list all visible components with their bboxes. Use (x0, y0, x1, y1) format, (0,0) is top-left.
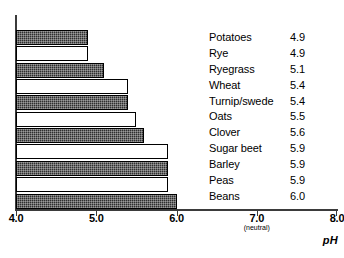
legend-row: Peas5.9 (209, 173, 339, 189)
x-tick-label: 6.0 (169, 212, 184, 224)
legend-ph-value: 5.9 (290, 157, 305, 173)
legend-ph-value: 6.0 (290, 189, 305, 205)
legend-ph-value: 5.9 (290, 141, 305, 157)
legend-ph-value: 5.9 (290, 173, 305, 189)
legend-row: Barley5.9 (209, 157, 339, 173)
x-tick-label: 8.0 (330, 212, 344, 224)
legend-row: Oats5.5 (209, 109, 339, 125)
legend-crop-name: Turnip/swede (209, 94, 273, 110)
bar-peas (16, 177, 168, 192)
legend-crop-name: Oats (209, 109, 232, 125)
bar-beans (16, 194, 177, 209)
legend-row: Beans6.0 (209, 189, 339, 205)
legend-ph-value: 5.6 (290, 125, 305, 141)
legend-row: Ryegrass5.1 (209, 62, 339, 78)
legend-crop-name: Ryegrass (209, 62, 255, 78)
legend-crop-name: Barley (209, 157, 240, 173)
legend-crop-name: Potatoes (209, 30, 252, 46)
x-tick-label: 7.0 (249, 212, 264, 224)
bar-rye (16, 46, 88, 61)
legend-ph-value: 4.9 (290, 30, 305, 46)
bar-turnip-swede (16, 95, 128, 110)
legend-row: Turnip/swede5.4 (209, 94, 339, 110)
legend-row: Rye4.9 (209, 46, 339, 62)
legend-crop-name: Peas (209, 173, 234, 189)
bar-potatoes (16, 30, 88, 45)
x-tick-sublabel: (neutral) (244, 224, 270, 231)
legend-crop-name: Beans (209, 189, 240, 205)
bar-clover (16, 128, 144, 143)
legend-row: Wheat5.4 (209, 78, 339, 94)
bar-barley (16, 161, 168, 176)
legend-row: Potatoes4.9 (209, 30, 339, 46)
legend-ph-value: 4.9 (290, 46, 305, 62)
legend-row: Sugar beet5.9 (209, 141, 339, 157)
x-tick-label: 5.0 (89, 212, 104, 224)
legend-row: Clover5.6 (209, 125, 339, 141)
legend-crop-name: Rye (209, 46, 228, 62)
legend-crop-name: Wheat (209, 78, 240, 94)
legend-crop-name: Sugar beet (209, 141, 262, 157)
bar-sugar-beet (16, 144, 168, 159)
legend-ph-value: 5.1 (290, 62, 305, 78)
bar-ryegrass (16, 63, 104, 78)
legend-ph-value: 5.5 (290, 109, 305, 125)
legend-crop-name: Clover (209, 125, 240, 141)
legend-table: Potatoes4.9Rye4.9Ryegrass5.1Wheat5.4Turn… (209, 30, 339, 205)
legend-ph-value: 5.4 (290, 94, 305, 110)
x-tick-label: 4.0 (9, 212, 24, 224)
bar-oats (16, 112, 136, 127)
legend-ph-value: 5.4 (290, 78, 305, 94)
bar-wheat (16, 79, 128, 94)
x-axis-title: pH (323, 234, 338, 246)
ph-bar-chart: 4.05.06.07.0(neutral)8.0 pH Potatoes4.9R… (0, 0, 344, 258)
